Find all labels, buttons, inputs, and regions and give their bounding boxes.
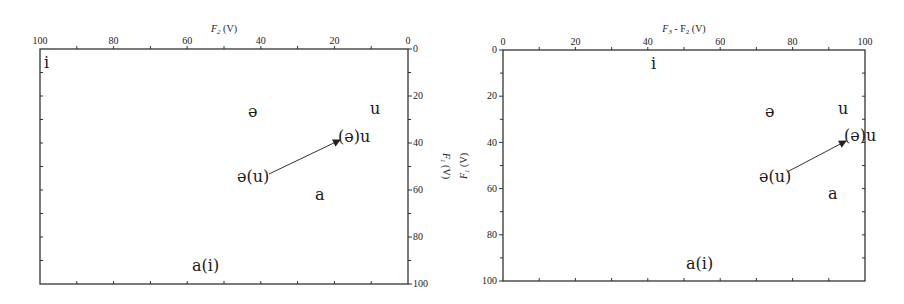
left-x-axis-title: F2 (V) — [210, 23, 237, 36]
right-x-tick-label: 100 — [858, 36, 873, 47]
right-y-tick-label: 60 — [487, 183, 497, 194]
vowel-label-i: i — [44, 53, 49, 72]
left-x-tick-label: 100 — [33, 35, 48, 46]
vowel-label-i: i — [651, 54, 656, 73]
vowel-label-schwa-u-target: (ə)u — [338, 127, 370, 146]
vowel-label-a: a — [315, 185, 325, 204]
vowel-label-schwa: ə — [765, 102, 774, 121]
left-x-tick-label: 80 — [109, 35, 119, 46]
right-y-tick-label: 40 — [487, 137, 497, 148]
right-y-tick-label: 80 — [487, 229, 497, 240]
vowel-label-schwa-u-source: ə(u) — [759, 167, 791, 186]
left-y-tick-label: 0 — [413, 43, 418, 54]
left-chart: F2 (V) 100 80 60 40 20 0 — [33, 23, 453, 289]
left-x-tick-label: 0 — [406, 35, 411, 46]
left-plot-frame — [40, 49, 408, 284]
left-y-tick-label: 20 — [413, 90, 423, 101]
left-y-tick-label: 60 — [413, 184, 423, 195]
right-y-axis-title: F1 (V) — [458, 153, 471, 180]
vowel-label-a: a — [828, 184, 838, 203]
right-x-tick-label: 0 — [501, 36, 506, 47]
right-plot-frame — [503, 50, 865, 281]
figure-canvas: F2 (V) 100 80 60 40 20 0 — [0, 0, 904, 304]
left-y-axis-title: F1 (V) — [439, 152, 452, 179]
left-y-tick-label: 80 — [413, 231, 423, 242]
vowel-label-schwa: ə — [248, 102, 257, 121]
left-x-ticks — [77, 46, 371, 284]
vowel-label-a-i: a(i) — [192, 256, 219, 275]
vowel-label-u: u — [838, 99, 848, 118]
vowel-label-schwa-u-target: (ə)u — [844, 126, 876, 145]
vowel-label-u: u — [370, 99, 380, 118]
right-y-tick-label: 20 — [487, 90, 497, 101]
left-x-tick-label: 40 — [256, 35, 266, 46]
right-x-tick-label: 40 — [643, 36, 653, 47]
right-y-tick-label: 100 — [482, 275, 497, 286]
right-x-tick-label: 20 — [570, 36, 580, 47]
right-x-ticks — [539, 47, 829, 281]
right-x-tick-label: 60 — [715, 36, 725, 47]
left-y-tick-label: 100 — [413, 278, 428, 289]
right-x-axis-title: F3 - F2 (V) — [661, 23, 705, 36]
right-y-ticks — [499, 50, 865, 281]
left-y-ticks — [40, 49, 412, 284]
vowel-label-schwa-u-source: ə(u) — [237, 167, 269, 186]
left-transition-arrow — [269, 140, 340, 174]
right-transition-arrow — [787, 141, 846, 172]
left-x-tick-label: 20 — [329, 35, 339, 46]
right-y-tick-label: 0 — [492, 44, 497, 55]
left-x-tick-label: 60 — [182, 35, 192, 46]
right-chart: F3 - F2 (V) 0 20 40 60 80 100 — [458, 23, 876, 286]
right-x-tick-label: 80 — [788, 36, 798, 47]
left-y-tick-label: 40 — [413, 137, 423, 148]
vowel-label-a-i: a(i) — [686, 254, 713, 273]
